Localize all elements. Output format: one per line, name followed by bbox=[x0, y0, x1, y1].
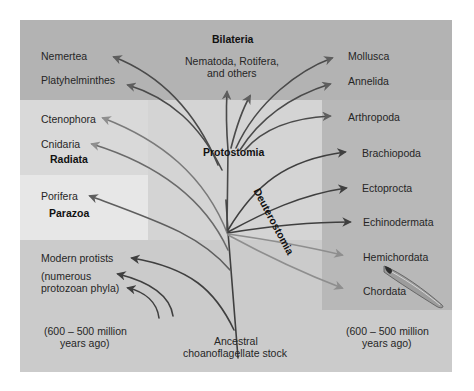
taxon-nemertea: Nemertea bbox=[41, 50, 87, 62]
root-label-line2: choanoflagellate stock bbox=[183, 347, 287, 359]
taxon-hemichordata: Hemichordata bbox=[363, 251, 428, 263]
branch-nematoda-1 bbox=[226, 92, 228, 150]
time-right-line2: years ago) bbox=[362, 337, 412, 349]
group-label-bilateria: Bilateria bbox=[212, 33, 253, 45]
taxon-modern-protists: Modern protists bbox=[41, 252, 113, 264]
taxon-protozoa-line1: (numerous bbox=[41, 270, 91, 282]
bilateria-others-line1: Nematoda, Rotifera, bbox=[185, 55, 279, 67]
branch-echinodermata bbox=[228, 222, 350, 233]
time-left-line2: years ago) bbox=[60, 337, 110, 349]
taxon-annelida: Annelida bbox=[348, 75, 389, 87]
taxon-porifera: Porifera bbox=[41, 190, 78, 202]
group-label-protostomia: Protostomia bbox=[203, 146, 264, 158]
branch-protostome-stem bbox=[227, 150, 228, 230]
taxon-mollusca: Mollusca bbox=[348, 50, 389, 62]
taxon-ectoprocta: Ectoprocta bbox=[362, 182, 412, 194]
taxon-chordata: Chordata bbox=[363, 285, 406, 297]
time-left-line1: (600 – 500 million bbox=[44, 325, 127, 337]
taxon-protozoa-line2: protozoan phyla) bbox=[41, 282, 119, 294]
branch-protozoa-2 bbox=[128, 288, 159, 318]
taxon-brachiopoda: Brachiopoda bbox=[362, 147, 421, 159]
taxon-cnidaria: Cnidaria bbox=[41, 138, 80, 150]
taxon-ctenophora: Ctenophora bbox=[41, 113, 96, 125]
branch-arthropoda bbox=[245, 116, 330, 150]
branch-modern-protists bbox=[132, 258, 234, 330]
taxon-arthropoda: Arthropoda bbox=[348, 111, 400, 123]
root-label-line1: Ancestral bbox=[214, 335, 258, 347]
group-label-radiata: Radiata bbox=[50, 153, 88, 165]
taxon-platyhelminthes: Platyhelminthes bbox=[41, 74, 115, 86]
bilateria-others-line2: and others bbox=[207, 67, 257, 79]
time-right-line1: (600 – 500 million bbox=[346, 325, 429, 337]
taxon-echinodermata: Echinodermata bbox=[363, 216, 434, 228]
group-label-parazoa: Parazoa bbox=[49, 207, 89, 219]
